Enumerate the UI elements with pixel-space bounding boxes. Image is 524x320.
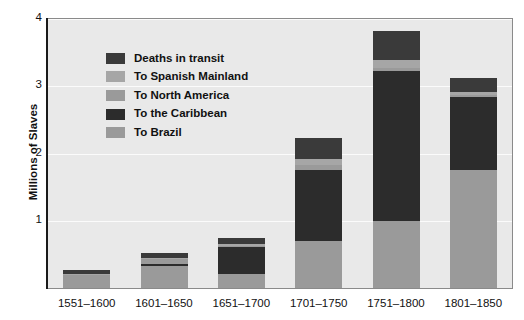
bar-segment-to-north-america [450,95,497,97]
bar-segment-to-spanish-mainland [141,258,188,259]
y-tick-label: 4 [18,11,42,23]
legend-item-to-north-america[interactable]: To North America [106,86,248,105]
bar-segment-to-brazil [218,274,265,288]
legend-item-label: To Brazil [134,127,182,139]
y-axis-line [46,18,48,289]
x-tick-label: 1701–1750 [280,297,357,309]
bar-segment-to-brazil [63,275,110,288]
gridline [48,154,512,155]
plot-area: Deaths in transitTo Spanish MainlandTo N… [47,18,513,289]
x-tick-label: 1551–1600 [48,297,125,309]
y-tick-label: 3 [18,78,42,90]
legend-swatch-icon [106,53,125,64]
bar-segment-to-spanish-mainland [373,60,420,68]
bar-segment-deaths-in-transit [373,31,420,60]
legend-swatch-icon [106,109,125,120]
bar-segment-to-the-caribbean [141,264,188,266]
legend-item-label: To North America [134,90,229,102]
bar-1551-1600[interactable] [63,270,110,288]
bar-segment-to-spanish-mainland [450,92,497,95]
bar-segment-deaths-in-transit [450,78,497,92]
x-tick-label: 1751–1800 [357,297,434,309]
bar-segment-to-north-america [141,259,188,264]
bar-segment-to-north-america [373,68,420,71]
legend-swatch-icon [106,127,125,138]
bar-segment-to-spanish-mainland [63,274,110,275]
bar-segment-to-brazil [373,221,420,288]
bar-1751-1800[interactable] [373,31,420,288]
y-tick-label: 2 [18,146,42,158]
bar-segment-to-the-caribbean [218,247,265,274]
bar-segment-deaths-in-transit [141,253,188,258]
legend-swatch-icon [106,90,125,101]
bar-segment-to-north-america [218,246,265,247]
bar-segment-deaths-in-transit [218,238,265,244]
bar-1651-1700[interactable] [218,238,265,288]
chart-legend: Deaths in transitTo Spanish MainlandTo N… [106,49,248,142]
bar-segment-to-brazil [295,241,342,288]
bar-segment-to-the-caribbean [373,71,420,220]
x-tick-label: 1801–1850 [435,297,512,309]
bar-segment-to-brazil [141,266,188,288]
legend-item-deaths-in-transit[interactable]: Deaths in transit [106,49,248,68]
legend-item-label: To Spanish Mainland [134,71,248,83]
bar-segment-to-brazil [450,170,497,288]
bar-segment-to-spanish-mainland [218,244,265,246]
gridline [48,19,512,20]
x-tick-label: 1601–1650 [125,297,202,309]
legend-item-to-brazil[interactable]: To Brazil [106,123,248,142]
legend-item-label: To the Caribbean [134,108,227,120]
chart-figure: Deaths in transitTo Spanish MainlandTo N… [0,0,524,320]
bar-segment-deaths-in-transit [295,138,342,159]
gridline [48,221,512,222]
legend-item-to-the-caribbean[interactable]: To the Caribbean [106,105,248,124]
legend-item-label: Deaths in transit [134,53,224,65]
bar-segment-deaths-in-transit [63,270,110,274]
bar-1801-1850[interactable] [450,78,497,288]
bar-segment-to-spanish-mainland [295,159,342,165]
bar-1601-1650[interactable] [141,253,188,288]
legend-swatch-icon [106,71,125,82]
bar-segment-to-north-america [295,165,342,170]
x-tick-label: 1651–1700 [203,297,280,309]
bar-1701-1750[interactable] [295,138,342,288]
bar-segment-to-the-caribbean [295,170,342,241]
y-tick-label: 1 [18,213,42,225]
bar-segment-to-the-caribbean [450,97,497,170]
legend-item-to-spanish-mainland[interactable]: To Spanish Mainland [106,68,248,87]
